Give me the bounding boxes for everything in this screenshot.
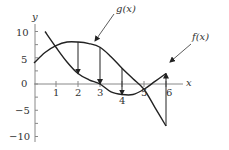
x-axis-label: x [186, 78, 192, 88]
chart-canvas [0, 0, 229, 150]
x-tick-label: 2 [75, 88, 81, 98]
y-tick-label: 5 [21, 55, 27, 65]
g-curve-label: g(x) [116, 4, 136, 14]
x-tick-label: 5 [141, 88, 147, 98]
y-tick-label: −10 [9, 132, 30, 142]
g-label-pointer [95, 14, 114, 41]
x-tick-label: 4 [119, 96, 125, 106]
f-curve [45, 32, 166, 96]
x-tick-label: 6 [166, 88, 172, 98]
f-curve-label: f(x) [192, 32, 209, 42]
y-tick-label: 10 [16, 28, 29, 38]
x-tick-label: 3 [97, 88, 103, 98]
y-tick-label: 0 [21, 79, 27, 89]
y-tick-label: −5 [15, 106, 30, 116]
x-tick-label: 1 [53, 88, 59, 98]
y-axis-label: y [32, 12, 38, 22]
f-label-pointer [170, 44, 191, 62]
